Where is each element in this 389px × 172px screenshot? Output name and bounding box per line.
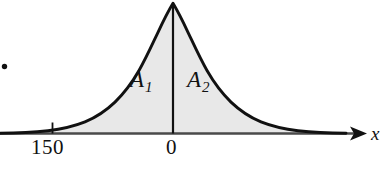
x-axis-tick-label-150: 150 [31, 137, 64, 158]
x-axis-origin-label: 0 [166, 137, 177, 158]
area-label-a1-letter: A [130, 67, 144, 92]
area-label-a1: A1 [130, 68, 152, 91]
x-axis-variable-label: x [371, 124, 379, 143]
margin-dot-mark [2, 64, 7, 69]
area-label-a1-subscript: 1 [145, 79, 153, 95]
area-label-a2: A2 [187, 68, 209, 91]
area-label-a2-subscript: 2 [202, 79, 210, 95]
normal-distribution-figure: A1 A2 150 0 x [0, 0, 389, 172]
area-label-a2-letter: A [187, 67, 201, 92]
